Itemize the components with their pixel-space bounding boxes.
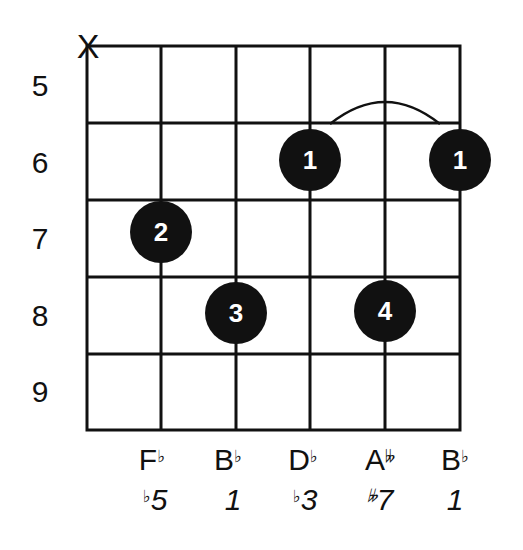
note-label: D♭ — [288, 443, 318, 476]
finger-dot: 3 — [205, 282, 267, 344]
fret-number: 9 — [32, 375, 49, 408]
fret-numbers: 5 6 7 8 9 — [32, 69, 49, 408]
fret-number: 6 — [32, 146, 49, 179]
interval-label: ♭3 — [293, 483, 318, 516]
interval-label: 1 — [447, 483, 464, 516]
finger-number: 1 — [303, 145, 317, 175]
finger-number: 4 — [378, 296, 393, 326]
interval-label: 𝄫7 — [367, 483, 395, 516]
fret-number: 5 — [32, 69, 49, 102]
fret-number: 7 — [32, 222, 49, 255]
finger-number: 1 — [453, 145, 467, 175]
note-label: B♭ — [441, 443, 469, 476]
note-label: F♭ — [139, 443, 165, 476]
note-label: A𝄫 — [365, 443, 395, 476]
fret-number: 8 — [32, 299, 49, 332]
finger-number: 2 — [154, 217, 168, 247]
interval-label: ♭5 — [143, 483, 168, 516]
interval-label: 1 — [225, 483, 242, 516]
finger-number: 3 — [229, 298, 243, 328]
finger-dot: 1 — [279, 129, 341, 191]
muted-string-marker: X — [77, 27, 100, 65]
chord-diagram: X 5 6 7 8 9 1 1 2 3 4 F♭ B♭ D♭ A𝄫 B♭ ♭5 — [0, 0, 523, 550]
note-names: F♭ B♭ D♭ A𝄫 B♭ — [139, 443, 469, 476]
note-label: B♭ — [214, 443, 242, 476]
interval-names: ♭5 1 ♭3 𝄫7 1 — [143, 483, 464, 516]
finger-dot: 4 — [354, 280, 416, 342]
finger-dot: 2 — [130, 201, 192, 263]
finger-dot: 1 — [429, 129, 491, 191]
